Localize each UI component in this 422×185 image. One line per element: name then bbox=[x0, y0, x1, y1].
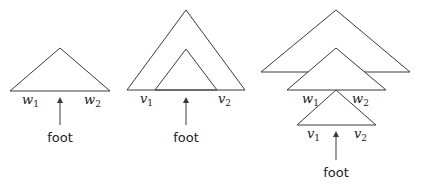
diagram-canvas: w1 w2 foot v1 v2 foot w1 w2 v1 bbox=[0, 0, 422, 185]
triangle-inner-tree bbox=[155, 49, 217, 90]
label-w1: w1 bbox=[22, 92, 39, 109]
triangle-middle-tree bbox=[287, 48, 386, 90]
triangle-outer-tree bbox=[127, 10, 245, 90]
label-w2: w2 bbox=[352, 91, 369, 108]
panel-middle: v1 v2 foot bbox=[127, 10, 245, 145]
label-v2: v2 bbox=[218, 91, 231, 108]
label-w1: w1 bbox=[302, 91, 319, 108]
triangle-auxiliary-tree bbox=[10, 48, 110, 91]
label-w2: w2 bbox=[84, 92, 101, 109]
label-v1: v1 bbox=[307, 126, 320, 143]
panel-right: w1 w2 v1 v2 foot bbox=[261, 10, 410, 180]
label-v1: v1 bbox=[140, 91, 153, 108]
label-v2: v2 bbox=[354, 126, 367, 143]
foot-label: foot bbox=[47, 130, 73, 145]
foot-label: foot bbox=[173, 130, 199, 145]
panel-left: w1 w2 foot bbox=[10, 48, 110, 145]
foot-label: foot bbox=[323, 165, 349, 180]
